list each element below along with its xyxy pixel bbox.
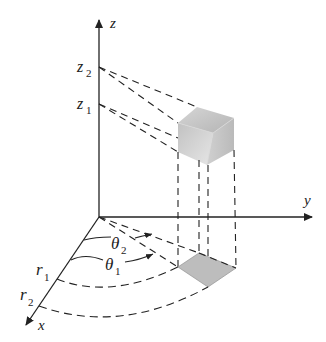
z2-label: z 2 <box>76 58 92 79</box>
y-axis-label: y <box>302 192 311 208</box>
svg-text:z: z <box>76 58 84 75</box>
base-region <box>178 253 236 287</box>
svg-text:r: r <box>36 260 43 279</box>
r2-label: r 2 <box>20 285 34 308</box>
svg-text:θ: θ <box>111 234 119 253</box>
z1-label: z 1 <box>76 95 92 116</box>
r1-label: r 1 <box>36 260 50 283</box>
z-axis-label: z <box>109 15 116 31</box>
svg-text:z: z <box>76 95 84 112</box>
svg-text:2: 2 <box>121 244 127 256</box>
radius-arcs <box>39 267 208 317</box>
volume-element-solid <box>178 107 234 165</box>
svg-text:1: 1 <box>86 104 92 116</box>
svg-text:2: 2 <box>28 296 34 308</box>
svg-text:1: 1 <box>115 265 121 277</box>
svg-text:2: 2 <box>86 67 92 79</box>
svg-text:r: r <box>20 285 27 304</box>
x-axis-label: x <box>37 317 45 333</box>
theta1-label: θ 1 <box>105 255 121 277</box>
svg-text:1: 1 <box>44 271 50 283</box>
theta2-label: θ 2 <box>111 234 127 256</box>
svg-text:θ: θ <box>105 255 113 274</box>
cylindrical-volume-diagram: z y x z 2 z 1 <box>0 0 326 342</box>
